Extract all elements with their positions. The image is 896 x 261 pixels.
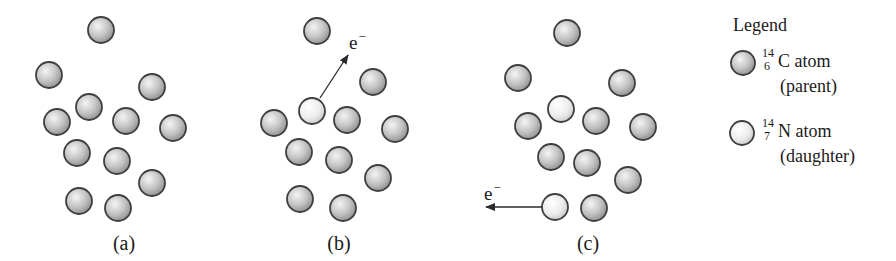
panel-label-c: (c) (577, 233, 599, 253)
carbon-14-atom (105, 195, 131, 221)
electron-symbol: e (484, 183, 492, 204)
atom-word: atom (790, 51, 831, 71)
legend-role-daughter: (daughter) (780, 147, 855, 165)
carbon-14-atom (382, 116, 408, 142)
carbon-14-atom (160, 115, 186, 141)
carbon-14-atom (44, 109, 70, 135)
legend-role-parent: (parent) (780, 77, 837, 95)
carbon-14-atom (609, 70, 635, 96)
carbon-14-atom (139, 74, 165, 100)
carbon-14-atom (326, 147, 352, 173)
panel-b (261, 18, 408, 221)
carbon-14-atom (261, 110, 287, 136)
carbon-14-atom (505, 65, 531, 91)
legend-item-daughter: 14 7 N atom (daughter) (728, 119, 896, 179)
nitrogen-14-atom (299, 98, 325, 124)
carbon-14-atom (330, 195, 356, 221)
carbon-14-atom (139, 170, 165, 196)
carbon-14-atom (574, 150, 600, 176)
carbon-14-atom (365, 165, 391, 191)
carbon-14-atom (76, 94, 102, 120)
carbon-14-atom (36, 62, 62, 88)
carbon-14-atom (113, 108, 139, 134)
electron-charge: − (358, 29, 365, 44)
carbon-14-atom (88, 17, 114, 43)
element-symbol: C (778, 51, 790, 71)
carbon-14-atom (286, 139, 312, 165)
legend-title: Legend (733, 16, 787, 34)
panel-a (36, 17, 186, 221)
carbon-14-atom (304, 18, 330, 44)
legend-label-parent: 14 6 C atom (762, 51, 831, 73)
carbon-14-atom (360, 69, 386, 95)
carbon-14-atom (515, 113, 541, 139)
legend-label-daughter: 14 7 N atom (762, 121, 832, 143)
carbon-14-atom (64, 140, 90, 166)
panel-label-a: (a) (113, 233, 135, 253)
atom-word: atom (791, 121, 832, 141)
carbon-14-atom (104, 148, 130, 174)
carbon-14-atom (630, 114, 656, 140)
mass-number: 14 (762, 47, 774, 59)
nitrogen-14-atom (542, 194, 568, 220)
electron-label-b: e− (349, 33, 366, 52)
nuclide-notation: 14 6 (762, 51, 777, 73)
carbon-14-atom (66, 188, 92, 214)
nuclide-notation: 14 7 (762, 121, 777, 143)
legend-item-parent: 14 6 C atom (parent) (728, 49, 896, 109)
element-symbol: N (778, 121, 791, 141)
carbon-14-atom (554, 20, 580, 46)
panel-label-b: (b) (327, 233, 350, 253)
carbon-14-atom (287, 186, 313, 212)
electron-emission-arrow (320, 55, 348, 98)
carbon-14-atom (583, 108, 609, 134)
mass-number: 14 (762, 117, 774, 129)
electron-charge: − (493, 180, 500, 195)
legend: Legend 14 6 C atom (parent) 14 7 N atom … (728, 14, 896, 184)
nitrogen-14-atom (548, 96, 574, 122)
electron-label-c: e− (484, 184, 501, 203)
carbon-14-atom (538, 144, 564, 170)
atomic-number: 6 (764, 60, 770, 72)
beta-decay-diagram: (a) (b) (c) e− e− Legend 14 6 C atom (pa… (0, 0, 896, 261)
carbon-14-atom (581, 195, 607, 221)
atomic-number: 7 (764, 130, 770, 142)
panel-c (486, 20, 656, 221)
carbon-14-atom (615, 167, 641, 193)
carbon-14-atom (334, 107, 360, 133)
electron-symbol: e (349, 32, 357, 53)
